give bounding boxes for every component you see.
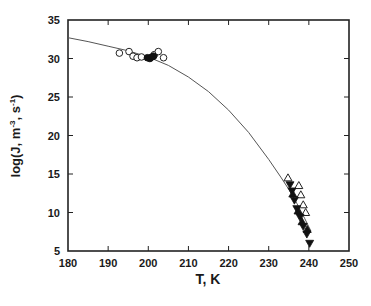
x-tick-label: 250 bbox=[340, 257, 358, 269]
data-point-open-triangle bbox=[284, 174, 292, 181]
y-axis-title: log(J, m-3, s-1) bbox=[8, 95, 23, 178]
y-tick-label: 20 bbox=[48, 130, 60, 142]
data-point-open-circle bbox=[116, 50, 123, 57]
x-tick-label: 240 bbox=[300, 257, 318, 269]
ticks: 1801902002102202302402505101520253035 bbox=[48, 14, 358, 269]
y-axis-title-base: log(J, m bbox=[8, 128, 23, 178]
x-tick-label: 190 bbox=[99, 257, 117, 269]
y-tick-label: 25 bbox=[48, 91, 60, 103]
data-point-filled-down-triangle bbox=[306, 240, 314, 247]
x-axis-title: T, K bbox=[196, 271, 221, 287]
data-point-open-circle bbox=[160, 54, 167, 61]
x-tick-label: 180 bbox=[59, 257, 77, 269]
x-tick-label: 200 bbox=[139, 257, 157, 269]
y-tick-label: 30 bbox=[48, 53, 60, 65]
y-axis-title-end: ) bbox=[8, 95, 23, 99]
y-tick-label: 35 bbox=[48, 14, 60, 26]
plot-frame bbox=[68, 20, 349, 251]
x-tick-label: 230 bbox=[260, 257, 278, 269]
y-tick-label: 15 bbox=[48, 168, 60, 180]
y-tick-label: 5 bbox=[54, 245, 60, 257]
data-point-open-triangle bbox=[297, 191, 305, 198]
data-point-filled-circle bbox=[150, 53, 157, 60]
y-axis-title-mid: , s bbox=[8, 106, 23, 120]
chart: 1801902002102202302402505101520253035 T,… bbox=[0, 0, 371, 306]
data-points bbox=[116, 48, 314, 247]
axes bbox=[68, 20, 349, 251]
data-point-open-triangle bbox=[295, 182, 303, 189]
x-tick-label: 220 bbox=[219, 257, 237, 269]
fit-curve bbox=[68, 38, 311, 231]
fit-curve-layer bbox=[68, 38, 311, 231]
x-tick-label: 210 bbox=[179, 257, 197, 269]
y-tick-label: 10 bbox=[48, 207, 60, 219]
